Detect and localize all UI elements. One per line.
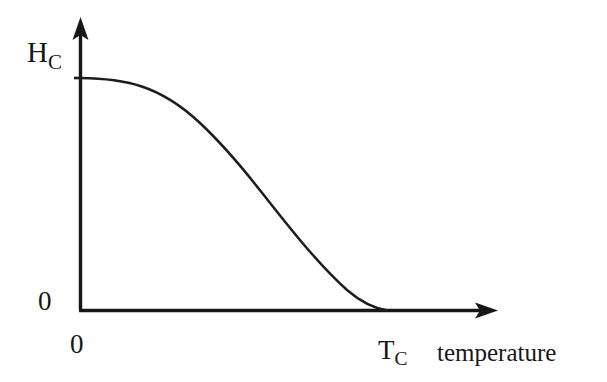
x-axis-critical-temperature-label: TC: [378, 337, 407, 369]
y-axis-label-base: H: [27, 36, 48, 68]
x-axis-critical-label-base: T: [378, 335, 395, 365]
x-axis-name-label: temperature: [437, 340, 556, 365]
critical-field-curve: [80, 78, 387, 310]
x-axis-origin-label: 0: [70, 331, 84, 358]
y-axis-origin-label: 0: [38, 288, 52, 315]
x-axis-critical-label-subscript: C: [395, 348, 408, 369]
critical-field-temperature-figure: HC 0 0 TC temperature: [0, 0, 607, 382]
plot-canvas: [0, 0, 607, 382]
y-axis-label-subscript: C: [48, 50, 62, 74]
y-axis-label: HC: [27, 38, 62, 73]
